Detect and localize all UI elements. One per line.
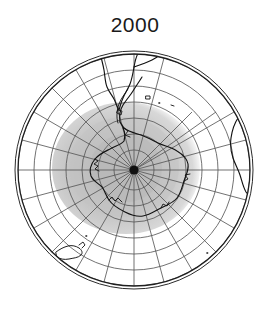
- coastline-tasmania: [190, 302, 195, 307]
- polar-map: [0, 40, 270, 310]
- coastline-madagascar: [261, 158, 266, 192]
- page-title: 2000: [0, 13, 270, 37]
- south-pole-marker: [129, 165, 138, 174]
- coastline-australia-south: [147, 295, 150, 310]
- coastline-australia: [150, 289, 214, 310]
- figure-container: 2000: [0, 0, 270, 324]
